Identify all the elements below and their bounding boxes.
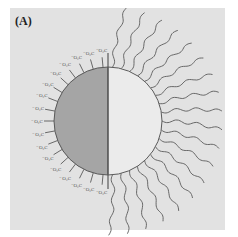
alkyl-tail: [161, 108, 222, 113]
headgroup-tick: [48, 141, 57, 145]
headgroup-tick: [61, 78, 68, 85]
carboxylate-label: ⁻O₂C: [31, 119, 43, 124]
alkyl-tail: [121, 13, 144, 69]
headgroup-tick: [90, 59, 93, 69]
headgroup-tick: [54, 149, 63, 154]
alkyl-tail: [130, 20, 162, 71]
headgroup-tick: [79, 64, 83, 73]
headgroup-tick: [102, 57, 103, 67]
carboxylate-label: ⁻O₂C: [96, 48, 108, 53]
carboxylate-label: ⁻O₂C: [32, 106, 44, 111]
alkyl-tail: [159, 91, 219, 104]
alkyl-tail: [121, 173, 129, 233]
carboxylate-label: ⁻O₂C: [36, 93, 48, 98]
headgroup-tick: [61, 157, 68, 164]
alkyl-tail: [145, 43, 192, 81]
alkyl-tail: [109, 175, 115, 236]
carboxylate-label: ⁻O₂C: [59, 62, 71, 67]
alkyl-tail: [138, 30, 178, 75]
headgroup-tick: [45, 131, 55, 133]
carboxylate-label: ⁻O₂C: [42, 156, 54, 161]
carboxylate-label: ⁻O₂C: [96, 190, 108, 195]
headgroup-tick: [69, 164, 75, 172]
headgroup-tick: [48, 98, 57, 102]
alkyl-tail: [151, 58, 204, 88]
headgroup-tick: [79, 169, 83, 178]
carboxylate-label: ⁻O₂C: [71, 183, 83, 188]
carboxylate-label: ⁻O₂C: [50, 71, 62, 76]
carboxylate-label: ⁻O₂C: [32, 132, 44, 137]
carboxylate-label: ⁻O₂C: [83, 187, 95, 192]
carboxylate-label: ⁻O₂C: [71, 55, 83, 60]
alkyl-tail: [161, 130, 219, 149]
carboxylate-label: ⁻O₂C: [50, 167, 62, 172]
carboxylate-label: ⁻O₂C: [59, 176, 71, 181]
carboxylate-label: ⁻O₂C: [36, 145, 48, 150]
headgroup-tick: [69, 70, 75, 78]
alkyl-tail: [151, 154, 193, 198]
janus-particle-diagram: ⁻O₂C⁻O₂C⁻O₂C⁻O₂C⁻O₂C⁻O₂C⁻O₂C⁻O₂C⁻O₂C⁻O₂C…: [0, 0, 238, 237]
headgroup-tick: [45, 109, 55, 111]
headgroup-tick: [102, 175, 103, 185]
alkyl-tail: [130, 171, 147, 229]
polar-hemisphere: [54, 67, 108, 175]
alkyl-tail: [162, 120, 222, 130]
carboxylate-label: ⁻O₂C: [83, 51, 95, 56]
alkyl-tail: [145, 161, 179, 211]
headgroup-tick: [90, 173, 93, 183]
headgroup-tick: [54, 87, 63, 92]
alkyl-tail: [156, 147, 205, 183]
carboxylate-label: ⁻O₂C: [42, 82, 54, 87]
